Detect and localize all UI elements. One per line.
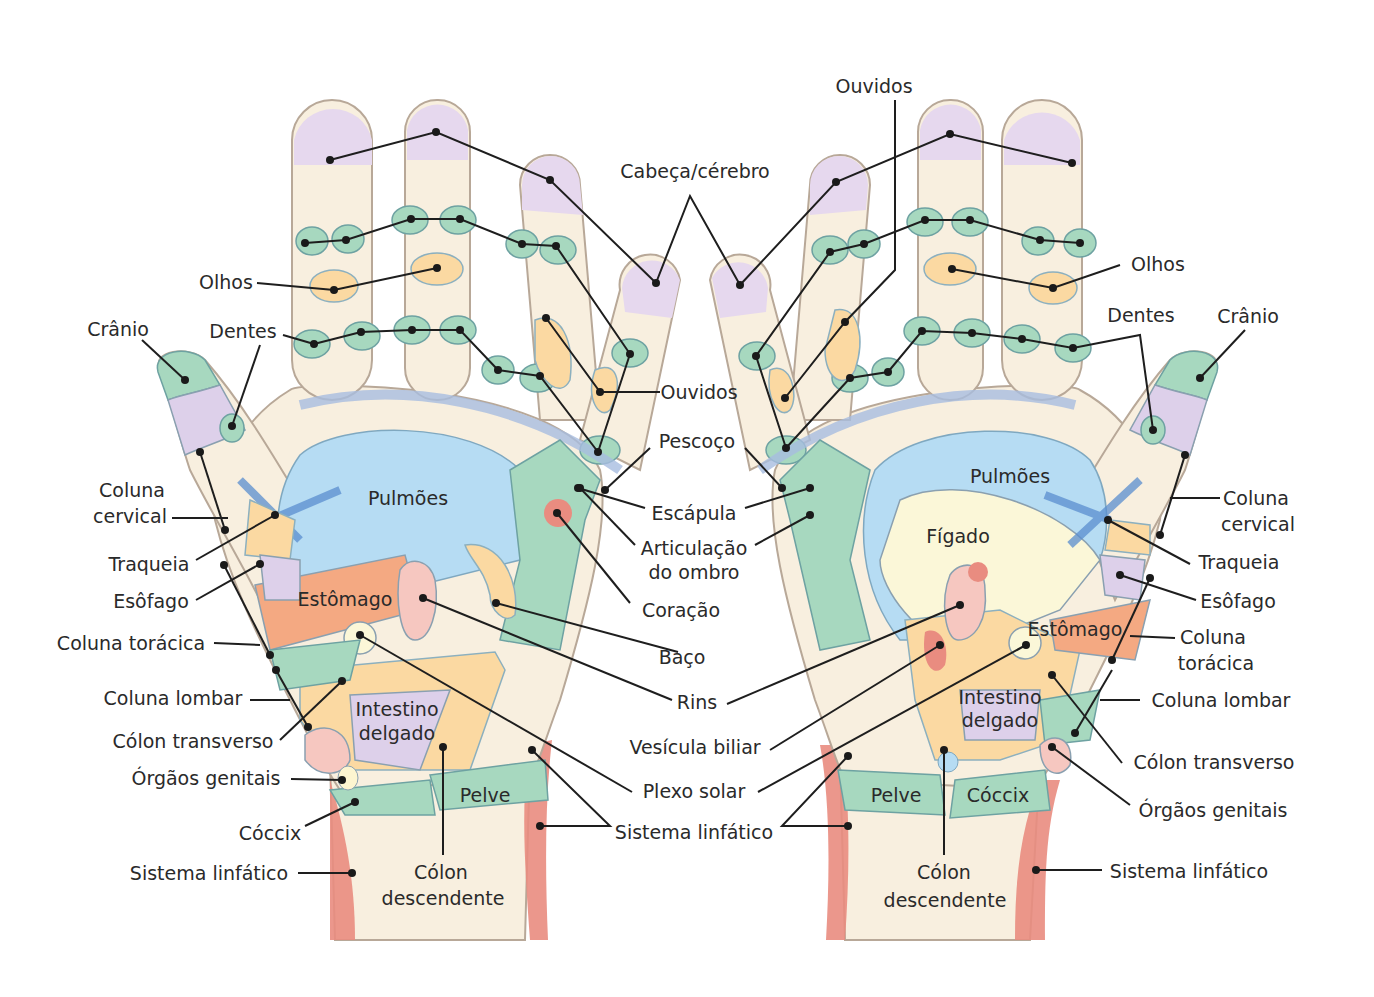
label-right-cervical-1: Coluna — [1223, 487, 1289, 509]
reflexology-diagram: Pulmões Estômago Intestino delgado Pelve — [0, 0, 1374, 997]
left-teeth-point — [344, 322, 380, 350]
label-left-descending-colon-2: descendente — [382, 887, 505, 909]
left-label-small-intestine-1: Intestino — [355, 698, 438, 720]
left-label-pelvis: Pelve — [460, 784, 511, 806]
label-spleen: Baço — [659, 646, 706, 668]
right-label-small-intestine-2: delgado — [962, 709, 1038, 731]
label-right-teeth: Dentes — [1107, 304, 1174, 326]
label-ears-top: Ouvidos — [835, 75, 912, 97]
left-esophagus-zone — [260, 555, 300, 600]
label-left-coccyx: Cóccix — [239, 822, 301, 844]
label-left-skull: Crânio — [87, 318, 149, 340]
left-label-small-intestine-2: delgado — [359, 722, 435, 744]
label-neck: Pescoço — [659, 430, 736, 452]
label-right-descending-colon-2: descendente — [884, 889, 1007, 911]
label-left-genitals: Órgãos genitais — [131, 766, 280, 789]
label-shoulder-1: Articulação — [641, 537, 748, 559]
label-kidneys: Rins — [677, 691, 717, 713]
label-right-thoracic-1: Coluna — [1180, 626, 1246, 648]
right-label-small-intestine-1: Intestino — [958, 686, 1041, 708]
right-label-liver: Fígado — [926, 525, 990, 547]
label-right-esophagus: Esôfago — [1200, 590, 1276, 612]
label-solar-plexus: Plexo solar — [643, 780, 746, 802]
label-left-lymphatic: Sistema linfático — [130, 862, 288, 884]
right-label-stomach: Estômago — [1028, 618, 1123, 640]
left-ring-tip — [522, 156, 583, 215]
label-right-lymphatic: Sistema linfático — [1110, 860, 1268, 882]
right-label-pelvis: Pelve — [871, 784, 922, 806]
label-left-eyes: Olhos — [199, 271, 253, 293]
label-right-descending-colon-1: Cólon — [917, 861, 971, 883]
left-label-stomach: Estômago — [298, 588, 393, 610]
label-ears-mid: Ouvidos — [660, 381, 737, 403]
right-label-coccyx: Cóccix — [967, 784, 1029, 806]
label-left-thoracic: Coluna torácica — [57, 632, 205, 654]
right-blue-point — [938, 752, 958, 772]
right-label-lungs: Pulmões — [970, 465, 1050, 487]
label-lymphatic-center: Sistema linfático — [615, 821, 773, 843]
label-left-descending-colon-1: Cólon — [414, 861, 468, 883]
label-left-transverse-colon: Cólon transverso — [113, 730, 274, 752]
label-left-cervical-1: Coluna — [99, 479, 165, 501]
right-trachea-zone — [1105, 520, 1150, 555]
label-right-trachea: Traqueia — [1198, 551, 1280, 573]
label-heart: Coração — [642, 599, 720, 621]
label-left-teeth: Dentes — [209, 320, 276, 342]
left-hand: Pulmões Estômago Intestino delgado Pelve — [157, 100, 680, 940]
label-right-eyes: Olhos — [1131, 253, 1185, 275]
label-left-esophagus: Esôfago — [113, 590, 189, 612]
label-left-lumbar: Coluna lombar — [104, 687, 243, 709]
label-left-trachea: Traqueia — [108, 553, 190, 575]
label-gallbladder: Vesícula biliar — [629, 736, 760, 758]
label-right-transverse-colon: Cólon transverso — [1134, 751, 1295, 773]
label-right-lumbar: Coluna lombar — [1152, 689, 1291, 711]
label-left-cervical-2: cervical — [93, 505, 167, 527]
label-right-skull: Crânio — [1217, 305, 1279, 327]
label-shoulder-2: do ombro — [649, 561, 740, 583]
label-right-genitals: Órgãos genitais — [1138, 798, 1287, 821]
label-head-brain: Cabeça/cérebro — [620, 160, 769, 182]
label-right-cervical-2: cervical — [1221, 513, 1295, 535]
label-right-thoracic-2: torácica — [1178, 652, 1254, 674]
right-adrenal — [968, 562, 988, 582]
label-scapula: Escápula — [651, 502, 736, 524]
right-ring-tip — [810, 156, 868, 215]
left-label-lungs: Pulmões — [368, 487, 448, 509]
